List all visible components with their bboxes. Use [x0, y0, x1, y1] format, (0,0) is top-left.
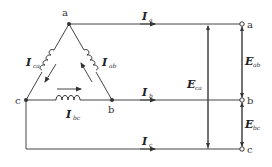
svg-text:I: I — [141, 86, 148, 99]
label-iab: I ab — [101, 56, 117, 69]
svg-text:bc: bc — [253, 124, 261, 131]
arrow-iab — [81, 63, 92, 82]
terminal-a — [240, 22, 244, 26]
svg-text:I: I — [25, 56, 32, 69]
node-label-b: b — [108, 104, 114, 115]
svg-text:I: I — [101, 56, 108, 69]
label-ibc: I bc — [65, 108, 81, 121]
svg-text:I: I — [141, 10, 148, 23]
node-c — [24, 98, 28, 102]
node-b — [110, 98, 114, 102]
terminal-label-c: c — [247, 144, 253, 155]
svg-text:b: b — [149, 92, 153, 99]
node-label-c: c — [15, 95, 21, 106]
svg-text:bc: bc — [73, 114, 81, 121]
svg-text:ab: ab — [109, 62, 117, 69]
svg-text:ca: ca — [33, 62, 40, 69]
svg-text:ca: ca — [195, 84, 202, 91]
label-ia: I a — [141, 10, 153, 23]
node-a — [67, 22, 71, 26]
svg-text:c: c — [149, 141, 153, 148]
label-ib: I b — [141, 86, 153, 99]
node-label-a: a — [62, 7, 68, 18]
svg-text:I: I — [65, 108, 72, 121]
terminal-label-b: b — [247, 95, 253, 106]
label-eca: E ca — [186, 78, 202, 91]
label-ebc: E bc — [244, 118, 261, 131]
terminal-label-a: a — [247, 19, 253, 30]
branch-bc — [26, 96, 112, 101]
svg-text:ab: ab — [253, 61, 261, 68]
terminal-c — [240, 147, 244, 151]
arrow-ica — [45, 64, 56, 82]
delta-circuit-diagram: a b c a b c I ca I ab I bc I a I b I c E… — [0, 0, 272, 167]
label-eab: E ab — [244, 55, 261, 68]
svg-text:a: a — [149, 16, 153, 23]
label-ic: I c — [141, 135, 153, 148]
svg-text:I: I — [141, 135, 148, 148]
label-ica: I ca — [25, 56, 40, 69]
terminal-b — [240, 98, 244, 102]
